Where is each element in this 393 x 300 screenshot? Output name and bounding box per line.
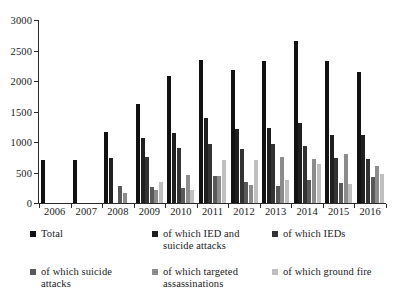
bar	[371, 177, 375, 203]
x-tick-mark	[165, 204, 166, 208]
bar-group	[104, 20, 131, 203]
x-tick-label: 2015	[328, 206, 349, 217]
legend-item[interactable]: of which IED and suicide attacks	[152, 228, 267, 252]
bar	[204, 118, 208, 203]
y-tick-mark	[34, 20, 38, 21]
bar	[123, 193, 127, 203]
legend-swatch-icon	[30, 231, 36, 237]
bar	[104, 132, 108, 203]
bar	[348, 184, 352, 203]
legend-label: of which targeted assassinations	[163, 266, 267, 290]
bar	[172, 133, 176, 203]
bar	[109, 158, 113, 203]
bar	[217, 176, 221, 203]
legend-swatch-icon	[272, 269, 278, 275]
bar-group	[231, 20, 258, 203]
bar	[276, 186, 280, 203]
bar	[186, 175, 190, 203]
bar-chart: 050010001500200025003000 200620072008200…	[0, 0, 393, 300]
y-tick-label: 2000	[11, 76, 32, 87]
legend-item[interactable]: Total	[30, 228, 140, 240]
y-tick-mark	[34, 81, 38, 82]
x-tick-label: 2006	[44, 206, 65, 217]
bar	[254, 160, 258, 203]
x-tick-mark	[386, 204, 387, 208]
x-tick-mark	[323, 204, 324, 208]
bar-group	[357, 20, 384, 203]
bar	[136, 104, 140, 203]
bar	[303, 146, 307, 203]
bar	[167, 76, 171, 203]
bar-group	[73, 20, 100, 203]
bar-group	[199, 20, 226, 203]
bar	[361, 135, 365, 203]
y-tick-label: 1500	[11, 106, 32, 117]
bar	[190, 190, 194, 203]
bar	[213, 176, 217, 203]
bar	[118, 186, 122, 203]
bar	[285, 180, 289, 203]
legend-label: of which ground fire	[283, 266, 372, 278]
legend-swatch-icon	[30, 269, 36, 275]
bar	[317, 164, 321, 203]
x-tick-label: 2016	[360, 206, 381, 217]
bar	[325, 61, 329, 203]
bar	[307, 180, 311, 203]
bar-group	[41, 20, 68, 203]
y-tick-label: 1000	[11, 137, 32, 148]
bar	[271, 144, 275, 203]
y-tick-mark	[34, 203, 38, 204]
x-tick-mark	[134, 204, 135, 208]
bar	[159, 182, 163, 203]
x-tick-mark	[197, 204, 198, 208]
x-tick-mark	[291, 204, 292, 208]
legend-item[interactable]: of which ground fire	[272, 266, 387, 278]
y-tick-mark	[34, 173, 38, 174]
bar	[231, 70, 235, 203]
bar	[262, 61, 266, 203]
legend-item[interactable]: of which IEDs	[272, 228, 387, 240]
bar	[249, 185, 253, 203]
bar	[181, 188, 185, 203]
x-tick-mark	[39, 204, 40, 208]
bar	[267, 128, 271, 203]
bar	[154, 190, 158, 203]
bar	[177, 148, 181, 204]
bar	[280, 157, 284, 203]
x-tick-mark	[354, 204, 355, 208]
x-tick-label: 2008	[107, 206, 128, 217]
x-tick-label: 2012	[233, 206, 254, 217]
x-tick-label: 2011	[202, 206, 223, 217]
y-tick-label: 3000	[11, 15, 32, 26]
plot-area: 050010001500200025003000 200620072008200…	[0, 0, 393, 222]
y-tick-mark	[34, 51, 38, 52]
bar	[357, 72, 361, 203]
legend-item[interactable]: of which suicide attacks	[30, 266, 140, 290]
x-tick-label: 2009	[139, 206, 160, 217]
bar-group	[325, 20, 352, 203]
bar	[298, 123, 302, 203]
bar-group	[262, 20, 289, 203]
legend-item[interactable]: of which targeted assassinations	[152, 266, 267, 290]
bar	[141, 138, 145, 203]
x-tick-label: 2007	[76, 206, 97, 217]
bar-group	[294, 20, 321, 203]
x-tick-mark	[102, 204, 103, 208]
bar	[339, 183, 343, 203]
legend-swatch-icon	[272, 231, 278, 237]
y-axis: 050010001500200025003000	[0, 0, 36, 222]
y-tick-label: 0	[27, 198, 32, 209]
bar	[150, 187, 154, 203]
legend-label: of which IEDs	[283, 228, 346, 240]
x-tick-label: 2010	[170, 206, 191, 217]
bar	[145, 157, 149, 203]
bar	[208, 144, 212, 203]
bar	[222, 160, 226, 203]
x-tick-mark	[228, 204, 229, 208]
bar	[73, 160, 77, 203]
x-tick-label: 2014	[296, 206, 317, 217]
bar-group	[136, 20, 163, 203]
y-tick-label: 500	[16, 167, 32, 178]
bar	[375, 166, 379, 203]
bar-group	[167, 20, 194, 203]
